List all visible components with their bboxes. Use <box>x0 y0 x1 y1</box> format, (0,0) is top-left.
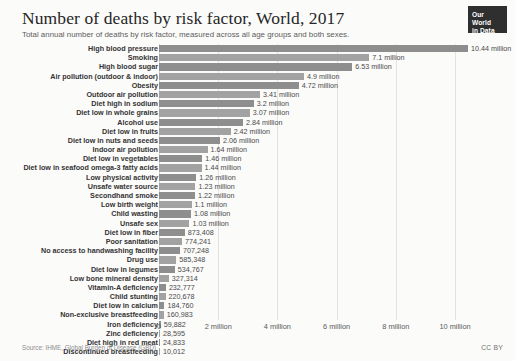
bar-row[interactable]: Child stunting220,678 <box>0 292 515 301</box>
bar-value-label: 585,348 <box>179 255 205 264</box>
bar[interactable] <box>159 146 208 153</box>
bar-label: Drug use <box>0 255 158 264</box>
bar-value-label: 3.2 million <box>257 99 289 108</box>
bar-row[interactable]: Obesity4.72 million <box>0 81 515 90</box>
bar-row[interactable]: Vitamin-A deficiency232,777 <box>0 283 515 292</box>
bar-label: Air pollution (outdoor & indoor) <box>0 72 158 81</box>
bar[interactable] <box>159 275 169 282</box>
bar-row[interactable]: High blood pressure10.44 million <box>0 44 515 53</box>
bar[interactable] <box>159 128 231 135</box>
bar[interactable] <box>159 45 468 52</box>
bar-row[interactable]: Smoking7.1 million <box>0 53 515 62</box>
bar[interactable] <box>159 266 175 273</box>
bar-label: Diet low in legumes <box>0 265 158 274</box>
bar-label: Diet high in sodium <box>0 99 158 108</box>
bar-label: Non-exclusive breastfeeding <box>0 310 158 319</box>
bar-row[interactable]: Child wasting1.08 million <box>0 209 515 218</box>
bar[interactable] <box>159 164 202 171</box>
bar[interactable] <box>159 201 192 208</box>
bar-row[interactable]: Diet low in nuts and seeds2.06 million <box>0 136 515 145</box>
x-axis-tick-label: 0 <box>157 322 161 331</box>
bar-label: Low bone mineral density <box>0 274 158 283</box>
bar[interactable] <box>159 192 195 199</box>
bar[interactable] <box>159 247 180 254</box>
bar[interactable] <box>159 73 304 80</box>
bar-row[interactable]: Alcohol use2.84 million <box>0 118 515 127</box>
bar-value-label: 873,408 <box>188 228 214 237</box>
bar[interactable] <box>159 91 260 98</box>
chart-header: Number of deaths by risk factor, World, … <box>22 8 507 40</box>
bar-row[interactable]: Diet low in seafood omega-3 fatty acids1… <box>0 163 515 172</box>
bar[interactable] <box>159 302 164 309</box>
bar-row[interactable]: Diet low in legumes534,767 <box>0 265 515 274</box>
bar-row[interactable]: Diet low in whole grains3.07 million <box>0 108 515 117</box>
bar[interactable] <box>159 293 166 300</box>
bar[interactable] <box>159 284 166 291</box>
bar-row[interactable]: Diet low in fruits2.42 million <box>0 127 515 136</box>
chart-subtitle: Total annual number of deaths by risk fa… <box>22 30 507 40</box>
bar-value-label: 1.08 million <box>194 209 230 218</box>
bar[interactable] <box>159 155 202 162</box>
bar-row[interactable]: Low bone mineral density327,314 <box>0 274 515 283</box>
bar-row[interactable]: Low physical activity1.26 million <box>0 173 515 182</box>
bar[interactable] <box>159 339 160 346</box>
bar-row[interactable]: Low birth weight1.1 million <box>0 200 515 209</box>
our-world-in-data-logo[interactable]: Our World in Data <box>468 6 507 33</box>
bar-label: Alcohol use <box>0 118 158 127</box>
bar-label: Diet low in seafood omega-3 fatty acids <box>0 163 158 172</box>
bar-label: Diet low in vegetables <box>0 154 158 163</box>
bar-row[interactable]: Unsafe water source1.23 million <box>0 182 515 191</box>
bar-value-label: 220,678 <box>169 292 195 301</box>
bar-row[interactable]: Non-exclusive breastfeeding160,983 <box>0 310 515 319</box>
bar-value-label: 3.41 million <box>263 90 299 99</box>
bar-label: Low physical activity <box>0 173 158 182</box>
license-note[interactable]: CC BY <box>481 344 503 351</box>
bar[interactable] <box>159 82 299 89</box>
bar-value-label: 1.1 million <box>195 200 227 209</box>
bar[interactable] <box>159 63 352 70</box>
bar[interactable] <box>159 210 191 217</box>
bar[interactable] <box>159 229 185 236</box>
bar-rows: High blood pressure10.44 millionSmoking7… <box>0 44 515 356</box>
bar-label: Outdoor air pollution <box>0 90 158 99</box>
bar-row[interactable]: Drug use585,348 <box>0 255 515 264</box>
bar-row[interactable]: Indoor air pollution1.64 million <box>0 145 515 154</box>
bar-row[interactable]: Outdoor air pollution3.41 million <box>0 90 515 99</box>
bar[interactable] <box>159 238 182 245</box>
bar-value-label: 707,248 <box>183 246 209 255</box>
bar[interactable] <box>159 348 160 355</box>
page-title: Number of deaths by risk factor, World, … <box>22 8 507 28</box>
bar[interactable] <box>159 220 189 227</box>
bar-label: Indoor air pollution <box>0 145 158 154</box>
bar[interactable] <box>159 183 195 190</box>
bar[interactable] <box>159 119 243 126</box>
bar-value-label: 4.72 million <box>302 81 338 90</box>
bar-label: Diet low in fiber <box>0 228 158 237</box>
bar-row[interactable]: Poor sanitation774,241 <box>0 237 515 246</box>
bar-label: Diet low in calcium <box>0 301 158 310</box>
bar[interactable] <box>159 54 369 61</box>
bar[interactable] <box>159 109 250 116</box>
bar-row[interactable]: High blood sugar6.53 million <box>0 62 515 71</box>
bar[interactable] <box>159 256 176 263</box>
bar-row[interactable]: Diet low in vegetables1.46 million <box>0 154 515 163</box>
bar-value-label: 7.1 million <box>372 53 404 62</box>
bar-label: Secondhand smoke <box>0 191 158 200</box>
bar[interactable] <box>159 100 254 107</box>
bar-label: Poor sanitation <box>0 237 158 246</box>
bar-row[interactable]: Diet high in sodium3.2 million <box>0 99 515 108</box>
bar[interactable] <box>159 311 164 318</box>
x-axis: 02 million4 million6 million8 million10 … <box>0 322 515 336</box>
bar-row[interactable]: Diet low in fiber873,408 <box>0 228 515 237</box>
bar-value-label: 2.84 million <box>246 118 282 127</box>
bar-value-label: 10.44 million <box>471 44 511 53</box>
bar[interactable] <box>159 174 196 181</box>
bar-label: Diet low in nuts and seeds <box>0 136 158 145</box>
bar[interactable] <box>159 137 220 144</box>
bar-value-label: 2.42 million <box>234 127 270 136</box>
bar-row[interactable]: Secondhand smoke1.22 million <box>0 191 515 200</box>
bar-row[interactable]: Diet low in calcium184,760 <box>0 301 515 310</box>
bar-row[interactable]: No access to handwashing facility707,248 <box>0 246 515 255</box>
bar-row[interactable]: Unsafe sex1.03 million <box>0 219 515 228</box>
bar-row[interactable]: Air pollution (outdoor & indoor)4.9 mill… <box>0 72 515 81</box>
